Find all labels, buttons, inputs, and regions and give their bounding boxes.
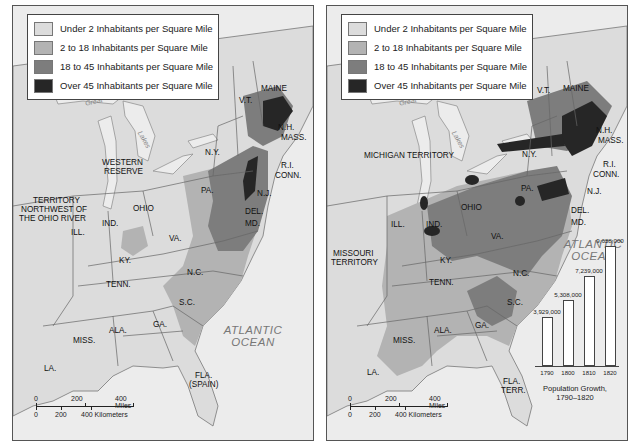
scale-tick [91, 406, 92, 410]
scale-km-400: 400 Kilometers [395, 411, 442, 418]
legend-label: 2 to 18 Inhabitants per Square Mile [374, 42, 522, 53]
legend-swatch-over-45 [34, 79, 53, 93]
legend-swatch-18-to-45 [348, 60, 367, 74]
legend-swatch-under-2 [34, 22, 53, 36]
label-vt: V.T. [537, 86, 550, 95]
label-conn: CONN. [275, 171, 301, 180]
legend-label: 18 to 45 Inhabitants per Square Mile [60, 61, 213, 72]
label-ri: R.I. [603, 160, 616, 169]
scale-bar: 0 200 400 Miles 0 200 400 Kilometers [347, 392, 457, 424]
label-tenn: TENN. [429, 278, 454, 287]
scale-tick [375, 406, 376, 410]
chart-value-label: 5,308,000 [554, 291, 582, 298]
label-nj: N.J. [587, 187, 602, 196]
label-ri: R.I. [281, 161, 294, 170]
label-la: LA. [44, 364, 56, 373]
label-pa: PA. [201, 186, 214, 195]
label-sc: S.C. [507, 298, 523, 307]
scale-tick [399, 403, 400, 407]
ocean-label-1: ATLANTIC [218, 324, 288, 336]
legend-item: 2 to 18 Inhabitants per Square Mile [348, 38, 526, 57]
label-sc: S.C. [179, 298, 195, 307]
label-ill: ILL. [391, 220, 405, 229]
scale-miles-200: 200 [71, 395, 83, 402]
label-miss: MISS. [73, 336, 95, 345]
legend-item: Under 2 Inhabitants per Square Mile [348, 19, 526, 38]
legend-swatch-2-to-18 [34, 41, 53, 55]
label-maine: MAINE [261, 84, 287, 93]
legend: Under 2 Inhabitants per Square Mile 2 to… [341, 14, 533, 100]
label-ga: GA. [475, 321, 489, 330]
label-conn: CONN. [593, 170, 619, 179]
legend-item: Under 2 Inhabitants per Square Mile [34, 19, 212, 38]
scale-bar: 0 200 400 Miles 0 200 400 Kilometers [33, 392, 143, 424]
label-miss: MISS. [393, 336, 415, 345]
label-ny: N.Y. [522, 150, 537, 159]
label-nh: N.H. [596, 126, 612, 135]
chart-value-label: 7,239,000 [575, 267, 603, 274]
legend-label: 2 to 18 Inhabitants per Square Mile [60, 42, 208, 53]
label-md: MD. [571, 218, 586, 227]
density-over-45-md [515, 196, 525, 206]
label-ohio: OHIO [461, 203, 482, 212]
scale-tick [36, 403, 37, 410]
chart-x-axis [535, 366, 619, 367]
label-nc: N.C. [187, 268, 203, 277]
label-fla-2: TERR. [501, 386, 526, 395]
label-va: VA. [491, 232, 504, 241]
chart-x-tick-label: 1810 [582, 370, 595, 376]
label-tenn: TENN. [106, 280, 131, 289]
scale-tick [61, 406, 62, 410]
scale-tick [85, 403, 86, 407]
label-fla: FLA. [195, 371, 212, 380]
label-ind: IND. [102, 219, 118, 228]
chart-x-tick-label: 1820 [603, 370, 616, 376]
label-del: DEL. [571, 206, 589, 215]
scale-miles-0: 0 [348, 395, 352, 402]
ocean-label: ATLANTIC OCEAN [218, 324, 288, 348]
density-over-45-ohio [465, 175, 479, 185]
map-panel-1820: Under 2 Inhabitants per Square Mile 2 to… [326, 5, 628, 441]
label-va: VA. [169, 234, 182, 243]
chart-caption-line-1: Population Growth, [527, 384, 623, 393]
label-territory: TERRITORY [33, 196, 80, 205]
label-nj: N.J. [257, 189, 272, 198]
legend-item: 18 to 45 Inhabitants per Square Mile [34, 57, 212, 76]
scale-km-0: 0 [348, 411, 352, 418]
legend-swatch-over-45 [348, 79, 367, 93]
scale-tick [447, 403, 448, 407]
legend-item: 18 to 45 Inhabitants per Square Mile [348, 57, 526, 76]
scale-tick [405, 406, 406, 410]
chart-bar-1820 [605, 246, 616, 366]
legend-swatch-under-2 [348, 22, 367, 36]
label-maine: MAINE [563, 84, 589, 93]
label-fla: FLA. [503, 377, 520, 386]
legend-label: Under 2 Inhabitants per Square Mile [60, 23, 213, 34]
scale-miles-200: 200 [385, 395, 397, 402]
label-la: LA. [367, 368, 379, 377]
scale-tick [350, 403, 351, 410]
chart-bar-1790 [542, 317, 553, 366]
map-panel-1800: Under 2 Inhabitants per Square Mile 2 to… [12, 5, 314, 441]
chart-value-label: 9,638,000 [596, 237, 624, 244]
legend-item: 2 to 18 Inhabitants per Square Mile [34, 38, 212, 57]
label-missouri-territory: MISSOURI [333, 249, 374, 258]
legend-label: 18 to 45 Inhabitants per Square Mile [374, 61, 527, 72]
legend: Under 2 Inhabitants per Square Mile 2 to… [27, 14, 219, 100]
chart-x-tick-label: 1790 [540, 370, 553, 376]
chart-bar-1800 [563, 300, 574, 366]
legend-label: Over 45 Inhabitants per Square Mile [60, 80, 213, 91]
chart-x-tick-label: 1800 [561, 370, 574, 376]
scale-miles-0: 0 [34, 395, 38, 402]
density-over-45-ind [420, 196, 428, 210]
population-growth-chart: Population Growth, 1790–1820 3,929,00017… [527, 234, 623, 404]
label-michigan-territory: MICHIGAN TERRITORY [364, 151, 454, 160]
scale-km-200: 200 [369, 411, 381, 418]
label-ohio: OHIO [133, 204, 154, 213]
label-western-reserve: WESTERN [102, 158, 143, 167]
ocean-label-2: OCEAN [218, 336, 288, 348]
chart-value-label: 3,929,000 [533, 308, 561, 315]
scale-tick [133, 403, 134, 407]
label-nh: N.H. [278, 123, 294, 132]
label-fla-2: (SPAIN) [189, 380, 218, 389]
